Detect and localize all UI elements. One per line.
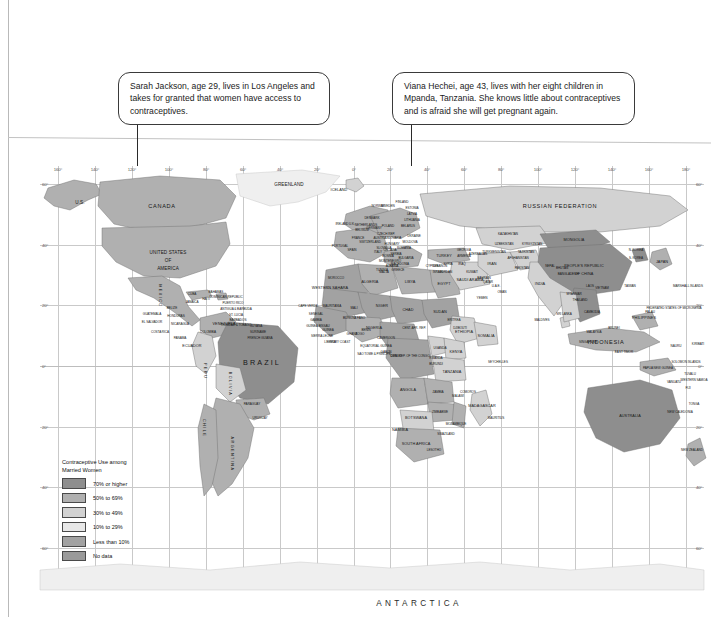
legend-item: Less than 10% <box>62 535 180 548</box>
legend-item: No data <box>62 550 180 563</box>
page-border-left <box>8 0 9 617</box>
legend-item: 30% to 49% <box>62 506 180 519</box>
legend-swatch <box>62 478 86 489</box>
legend-item: 70% or higher <box>62 477 180 490</box>
page-border-top <box>8 137 711 144</box>
label-antarctica: ANTARCTICA <box>376 599 462 608</box>
legend-label: 70% or higher <box>93 481 127 487</box>
legend-rows: 70% or higher50% to 69%30% to 49%10% to … <box>62 477 180 563</box>
legend-swatch <box>62 551 86 562</box>
legend-item: 10% to 29% <box>62 521 180 534</box>
callout-viana-hechei: Viana Hechei, age 43, lives with her eig… <box>392 72 635 125</box>
map-legend: Contraceptive Use among Married Women 70… <box>62 459 180 564</box>
legend-swatch <box>62 536 86 547</box>
legend-title: Contraceptive Use among Married Women <box>62 459 180 474</box>
callout-sarah-text: Sarah Jackson, age 29, lives in Los Ange… <box>130 80 319 117</box>
legend-label: Less than 10% <box>93 539 129 545</box>
legend-swatch <box>62 507 86 518</box>
legend-label: 50% to 69% <box>93 495 123 501</box>
legend-swatch <box>62 493 86 504</box>
legend-title-line2: Married Women <box>62 467 102 473</box>
legend-label: No data <box>93 553 112 559</box>
legend-title-line1: Contraceptive Use among <box>62 459 127 465</box>
legend-label: 10% to 29% <box>93 524 123 530</box>
callout-sarah-jackson: Sarah Jackson, age 29, lives in Los Ange… <box>118 72 330 125</box>
legend-swatch <box>62 522 86 533</box>
legend-item: 50% to 69% <box>62 492 180 505</box>
legend-label: 30% to 49% <box>93 510 123 516</box>
callout-viana-text: Viana Hechei, age 43, lives with her eig… <box>404 80 624 117</box>
